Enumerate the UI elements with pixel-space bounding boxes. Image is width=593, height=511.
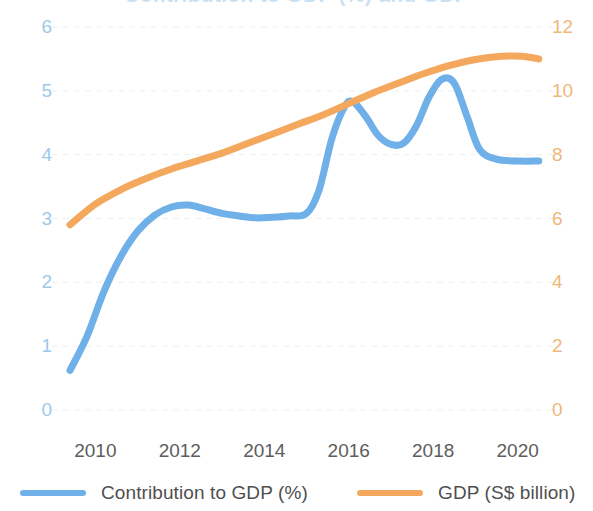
x-axis-tick: 2010 — [60, 440, 130, 462]
y-axis-right-tick: 8 — [552, 145, 592, 164]
x-axis-tick: 2018 — [398, 440, 468, 462]
chart-container: Contribution to GDP (%) and GDP 0123456 … — [0, 0, 593, 511]
y-axis-right-tick: 12 — [552, 17, 592, 36]
y-axis-left-tick: 4 — [12, 145, 52, 164]
series-line-1 — [70, 56, 539, 225]
x-axis-tick: 2014 — [229, 440, 299, 462]
x-axis-tick: 2020 — [483, 440, 553, 462]
legend-swatch-icon — [20, 490, 86, 496]
y-axis-right-tick: 10 — [552, 81, 592, 100]
data-series-layer — [70, 56, 539, 370]
plot-area — [0, 0, 593, 511]
legend-item-1[interactable]: GDP (S$ billion) — [357, 478, 575, 508]
y-axis-right: 024681012 — [552, 0, 593, 430]
x-axis-tick: 2016 — [314, 440, 384, 462]
y-axis-right-tick: 4 — [552, 272, 592, 291]
y-axis-left-tick: 2 — [12, 272, 52, 291]
y-axis-left-tick: 1 — [12, 336, 52, 355]
x-axis-tick: 2012 — [145, 440, 215, 462]
legend-label: Contribution to GDP (%) — [101, 482, 308, 504]
legend-item-0[interactable]: Contribution to GDP (%) — [20, 478, 308, 508]
y-axis-left-tick: 0 — [12, 400, 52, 419]
y-axis-left-tick: 6 — [12, 17, 52, 36]
y-axis-left-tick: 5 — [12, 81, 52, 100]
chart-legend: Contribution to GDP (%)GDP (S$ billion) — [0, 478, 593, 511]
y-axis-right-tick: 0 — [552, 400, 592, 419]
y-axis-left-tick: 3 — [12, 209, 52, 228]
y-axis-left: 0123456 — [6, 0, 52, 430]
gridlines — [52, 27, 561, 410]
y-axis-right-tick: 2 — [552, 336, 592, 355]
y-axis-right-tick: 6 — [552, 209, 592, 228]
legend-swatch-icon — [357, 490, 423, 496]
legend-label: GDP (S$ billion) — [438, 482, 575, 504]
